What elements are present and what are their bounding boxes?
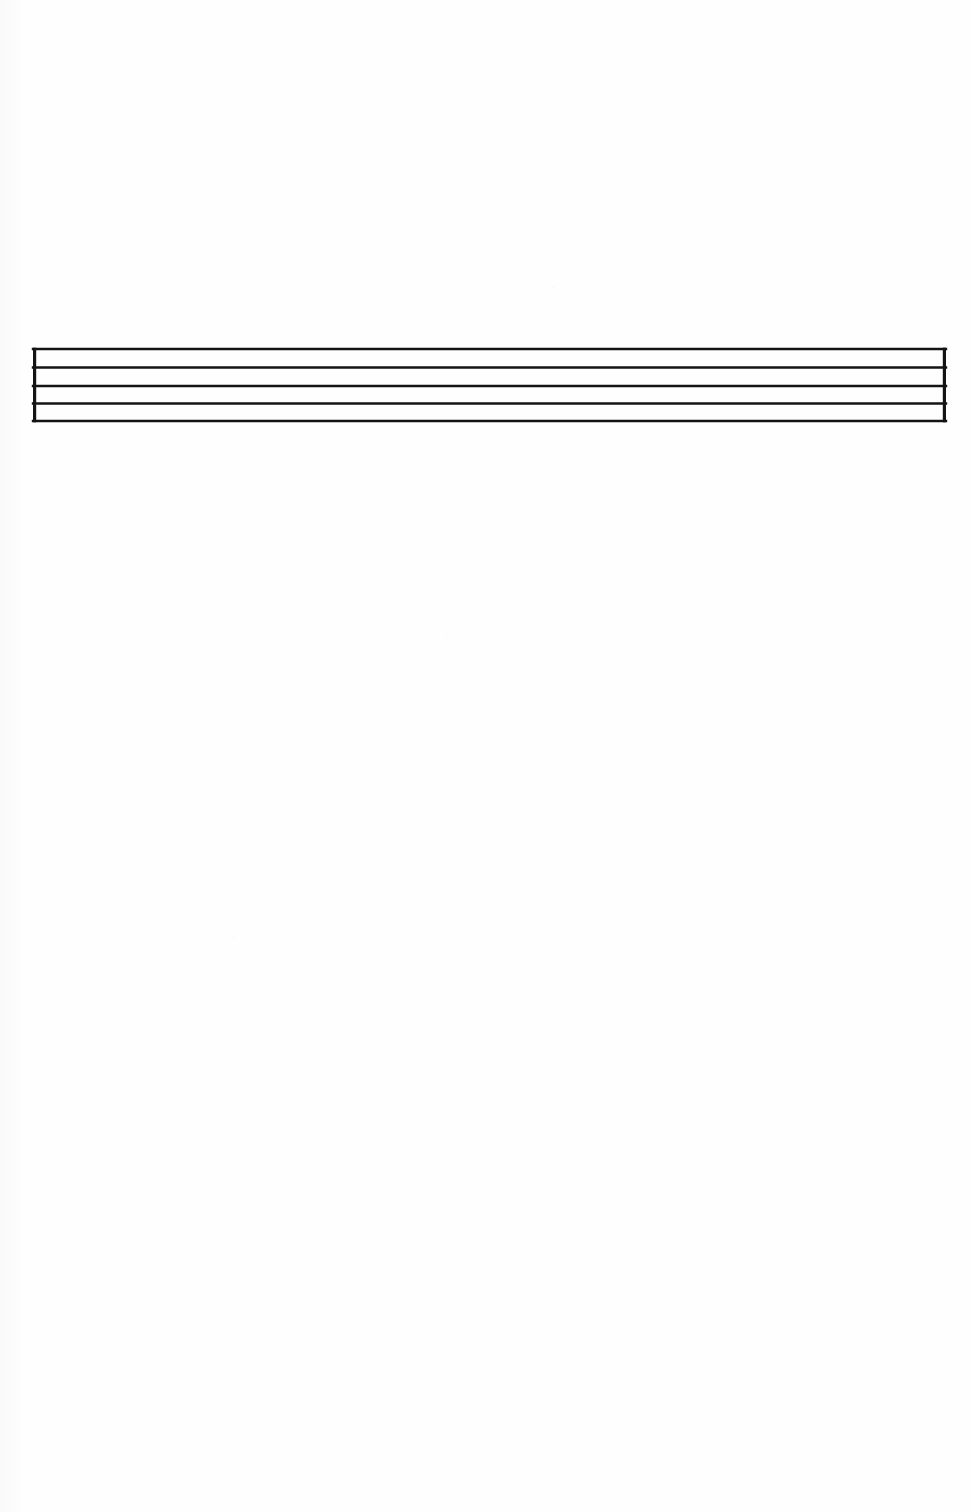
- scanned-page: Empty five-line musical staff (stave) dr…: [0, 0, 971, 1512]
- scan-edge-shadow: [0, 0, 26, 1512]
- paper-noise-texture: [0, 0, 971, 1512]
- music-staff: [27, 343, 952, 427]
- staff-svg: [27, 343, 952, 427]
